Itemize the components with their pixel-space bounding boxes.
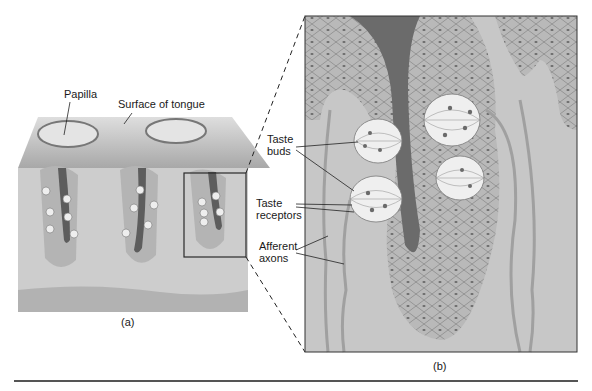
label-afferent-axons-line2: axons xyxy=(259,252,297,264)
label-taste-receptors-line1: Taste xyxy=(256,197,302,209)
label-taste-receptors: Taste receptors xyxy=(256,197,302,221)
panel-b-illustration xyxy=(305,16,577,352)
label-taste-buds-line2: buds xyxy=(267,145,293,157)
label-afferent-axons-line1: Afferent xyxy=(259,240,297,252)
illustration-canvas xyxy=(0,0,592,391)
label-papilla: Papilla xyxy=(64,88,97,100)
label-taste-buds: Taste buds xyxy=(267,133,293,157)
zoom-connector-bottom xyxy=(246,257,305,352)
label-surface-of-tongue: Surface of tongue xyxy=(118,98,205,110)
caption-b: (b) xyxy=(433,360,446,372)
label-afferent-axons: Afferent axons xyxy=(259,240,297,264)
panel-a-illustration xyxy=(18,102,270,312)
label-taste-buds-line1: Taste xyxy=(267,133,293,145)
caption-a: (a) xyxy=(121,316,134,328)
label-taste-receptors-line2: receptors xyxy=(256,209,302,221)
